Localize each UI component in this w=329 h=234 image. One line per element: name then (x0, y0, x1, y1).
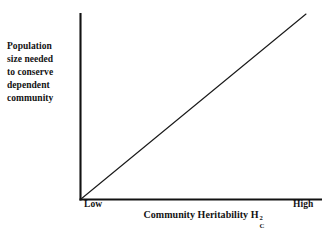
figure-container: Population size needed to conserve depen… (0, 0, 329, 234)
plot-area (0, 0, 329, 234)
x-axis-label-text: Community Heritability H (143, 209, 258, 220)
heritability-superscript: 2 (260, 215, 263, 222)
plot-svg (0, 0, 329, 234)
heritability-subscript: C (260, 223, 265, 230)
data-series-line (81, 14, 306, 199)
x-axis-label: Community Heritability H2C (80, 209, 323, 220)
x-tick-label-low: Low (84, 199, 102, 209)
x-tick-label-high: High (293, 199, 313, 209)
